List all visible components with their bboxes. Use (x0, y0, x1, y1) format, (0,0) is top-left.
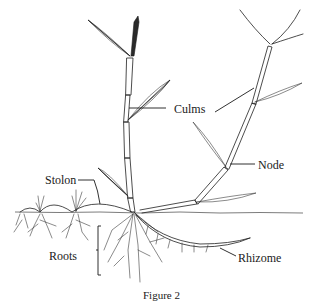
main-culm (88, 16, 170, 212)
secondary-culm (140, 10, 303, 213)
stolon-label: Stolon (45, 174, 76, 186)
culms-leader-right (215, 88, 254, 112)
ground-line (15, 212, 303, 213)
grass-plant-diagram: Culms Node Stolon Roots Rhizome Figure 2 (0, 0, 317, 305)
stolon-leader (78, 180, 100, 204)
rhizome-leader (220, 248, 236, 256)
roots (14, 214, 164, 282)
roots-label: Roots (49, 250, 77, 262)
node-label: Node (258, 159, 284, 171)
rhizome (134, 212, 250, 252)
culms-label: Culms (174, 103, 205, 115)
figure-caption: Figure 2 (143, 290, 180, 301)
stolon (20, 190, 132, 212)
roots-bracket (96, 226, 101, 275)
rhizome-label: Rhizome (238, 252, 281, 264)
seed-head (131, 16, 139, 56)
